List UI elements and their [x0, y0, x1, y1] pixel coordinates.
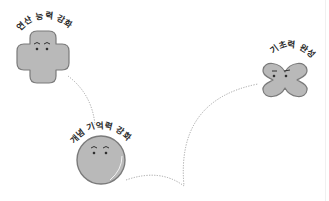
path-concept-to-basics — [126, 84, 258, 186]
x-clover-shape-icon — [263, 63, 307, 96]
node-calc: 연산 능력 강화 — [15, 10, 75, 83]
diagram-canvas: 연산 능력 강화 개념 기억력 강화 — [0, 0, 329, 201]
node-basics-label: 기초력 완성 — [268, 39, 317, 60]
path-calc-to-concept — [68, 76, 95, 125]
node-concept: 개념 기억력 강화 — [68, 120, 134, 184]
node-basics: 기초력 완성 — [263, 39, 317, 97]
circle-shape-icon — [77, 136, 125, 184]
plus-shape-icon — [17, 31, 69, 83]
edge-divider — [325, 0, 326, 201]
node-calc-label: 연산 능력 강화 — [15, 10, 75, 32]
learning-path-diagram: 연산 능력 강화 개념 기억력 강화 — [0, 0, 329, 201]
